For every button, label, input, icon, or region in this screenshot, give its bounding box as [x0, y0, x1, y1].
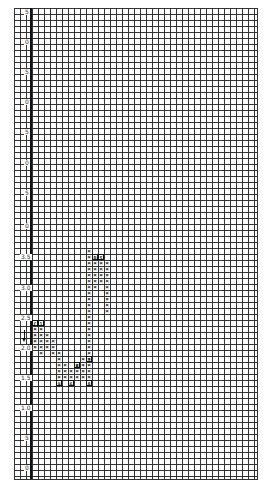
down-arrow-icon [24, 330, 25, 340]
y-tick-label: 3.0 [20, 285, 32, 291]
x-mark: × [92, 284, 98, 290]
y-tick-label: 5 [24, 435, 30, 441]
y-tick-label: 5 [24, 129, 30, 135]
y-tick-label: 5 [24, 9, 30, 15]
month-marker: A [74, 362, 80, 368]
y-tick-label: 0 [24, 99, 30, 105]
y-tick-label: 3.5 [20, 254, 32, 260]
month-marker: 8 [86, 380, 92, 386]
y-tick-label: 2.5 [20, 315, 32, 321]
month-marker: 1 [38, 320, 44, 326]
y-tick-label: 0 [24, 39, 30, 45]
y-tick-label: 2.0 [20, 345, 32, 351]
y-tick-label: 1.5 [20, 375, 32, 381]
y-tick-label: 0 [24, 465, 30, 471]
y-tick-label: 0 [24, 223, 30, 229]
pnf-grid [14, 8, 258, 480]
month-marker: 5 [98, 254, 104, 260]
y-tick-label: 5 [24, 190, 30, 196]
month-marker: 6 [68, 380, 74, 386]
x-mark: × [38, 350, 44, 356]
y-tick-label: 0 [24, 160, 30, 166]
month-marker: 9 [56, 380, 62, 386]
month-marker: 2 [86, 356, 92, 362]
x-mark: × [104, 308, 110, 314]
y-tick-label: 1.0 [20, 405, 32, 411]
y-tick-label: 5 [24, 69, 30, 75]
